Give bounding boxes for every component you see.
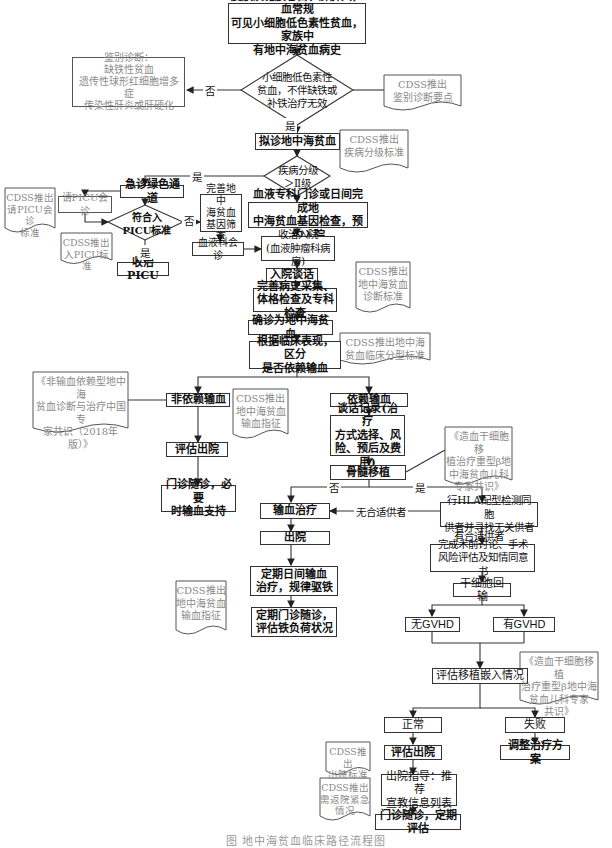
confirmed-diagnosis-box: 确诊为地中海贫血 xyxy=(248,320,333,335)
non-transfusion-dependent-box: 非依赖输血 xyxy=(166,393,230,407)
start-box: 皮肤及黏膜苍白、肝脾大，血常规 可见小细胞低色素性贫血，家族中 有地中海贫血病史 xyxy=(228,3,366,44)
label-no-donor: 无合适供者 xyxy=(354,504,408,519)
outpatient-gene-test-box: 血液专科门诊或日间完成地 中海贫血基因检查，预约入院 xyxy=(248,202,368,228)
stem-cell-infusion-box: 干细胞回输 xyxy=(453,583,511,597)
bone-marrow-transplant-box: 骨髓移植 xyxy=(330,465,406,480)
cdss-transfusion-indication-doc-2: CDSS推出 地中海贫血 输血指征 xyxy=(176,581,226,627)
outpatient-followup-box-1: 门诊随诊，必要 时输血支持 xyxy=(161,485,236,512)
talk-record-box: 谈话记录(治疗 方式选择、风 险、预后及费用) xyxy=(330,415,405,456)
label-yes-bmt: 是 xyxy=(413,480,427,495)
label-no-differential: 否 xyxy=(203,83,217,98)
label-has-donor: 有合适供者 xyxy=(452,528,506,543)
label-yes-picu: 是 xyxy=(138,245,152,260)
classify-transfusion-box: 根据临床表现，区分 是否依赖输血 xyxy=(249,341,341,369)
final-followup-box: 门诊随诊，定期评估 xyxy=(375,814,461,830)
consensus-hsct-doc-1: 《造血干细胞移 植治疗重型β地 中海贫血儿科 专家共识》 xyxy=(445,427,512,477)
cdss-return-emergency-doc: CDSS推出 需返院紧急 情况 xyxy=(320,778,370,816)
no-gvhd-box: 无GVHD xyxy=(405,617,460,632)
picu-consult-box: 请PICU会诊 xyxy=(58,196,112,213)
cdss-transfusion-indication-doc-1: CDSS推出 地中海贫血 输血指征 xyxy=(233,389,288,431)
cdss-diagnosis-standard-doc: CDSS推出 地中海贫血 诊断标准 xyxy=(356,262,410,304)
cdss-discharge-standard-doc: CDSS推出 出院标准 xyxy=(326,742,370,770)
hematology-consult-box: 血液科会诊 xyxy=(192,242,244,256)
evaluate-discharge-box-2: 评估出院 xyxy=(384,745,442,760)
label-yes-emergency: 是 xyxy=(190,169,204,184)
gene-screen-box: 完善地中 海贫血 基因筛查 xyxy=(200,194,242,232)
failure-box: 失败 xyxy=(505,717,565,733)
cdss-differential-doc: CDSS推出 鉴别诊断要点 xyxy=(384,75,461,103)
consensus-ntdt-doc: 《非输血依赖型地中海 贫血诊断与治疗中国专 家共识（2018年版）》 xyxy=(33,372,128,424)
discharge-box: 出院 xyxy=(260,531,330,545)
transfusion-therapy-box: 输血治疗 xyxy=(260,503,330,519)
pre-operative-box: 完成术前讨论、手术 风险评估及知情同意书 xyxy=(430,544,535,572)
cdss-picu-admit-doc: CDSS推出 入PICU标准 xyxy=(61,233,112,259)
emergency-green-channel-box: 急诊绿色通道 xyxy=(120,185,184,198)
cdss-clinical-type-doc: CDSS推出地中海 贫血临床分型标准 xyxy=(340,333,430,359)
cdss-grade-doc: CDSS推出 疾病分级标准 xyxy=(340,130,408,164)
history-exam-box: 完善病史采集、 体格检查及专科检查 xyxy=(253,288,337,312)
decision-microcytic: 小细胞低色素性 贫血，不伴缺铁或 补铁治疗无效 xyxy=(248,70,346,110)
label-no-bmt: 否 xyxy=(327,480,341,495)
adjust-treatment-box: 调整治疗方案 xyxy=(500,745,570,760)
label-no-picu: 否 xyxy=(182,213,196,228)
normal-box: 正常 xyxy=(384,717,442,733)
consensus-hsct-doc-2: 《造血干细胞移植 治疗重型β地中海 贫血儿科专家 共识》 xyxy=(520,652,598,698)
admit-picu-box: 收治PICU xyxy=(117,262,169,276)
regular-transfusion-box: 定期日间输血 治疗，规律驱铁 xyxy=(250,566,338,596)
gvhd-box: 有GVHD xyxy=(493,617,555,632)
engraftment-eval-box: 评估移植嵌入情况 xyxy=(432,668,528,684)
admit-ward-box: 收治入院 (血液肿瘤科病房) xyxy=(261,236,335,261)
differential-diagnosis-box: 鉴别诊断： 缺铁性贫血 遗传性球形红细胞增多症 传染性肝炎或肝硬化 xyxy=(72,57,185,107)
evaluate-discharge-box-1: 评估出院 xyxy=(166,442,228,457)
discharge-guidance-box: 出院指导：推荐 宣教信息列表 xyxy=(381,774,457,806)
decision-picu: 符合入 PICU标准 xyxy=(118,212,176,236)
label-yes-suspected: 是 xyxy=(283,118,297,133)
decision-grade: 疾病分级 ＞Ⅱ级 xyxy=(270,165,325,189)
regular-followup-box: 定期门诊随诊， 评估铁负荷状况 xyxy=(251,607,337,637)
figure-caption: 图 地中海贫血临床路径流程图 xyxy=(0,832,612,848)
cdss-picu-consult-doc: CDSS推出 请PICU会诊 标准 xyxy=(5,188,55,226)
hla-matching-box: 行HLA配型检测同胞 供者并寻找无关供者 xyxy=(440,502,538,527)
suspected-thalassemia-box: 拟诊地中海贫血 xyxy=(255,133,340,150)
